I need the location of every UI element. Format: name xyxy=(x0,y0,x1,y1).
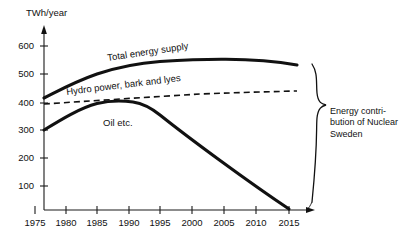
y-axis xyxy=(41,25,47,210)
y-tick-label-400: 400 xyxy=(8,98,34,108)
x-tick-label-1975: 1975 xyxy=(20,218,50,228)
x-tick-label-1980: 1980 xyxy=(51,218,81,228)
chart-container: TWh/year 600 500 400 300 200 100 1975 19… xyxy=(0,0,402,237)
nuclear-contribution-annotation: Energy contri- bution of Nuclear Sweden xyxy=(330,106,402,140)
y-tick-label-200: 200 xyxy=(8,153,34,163)
x-tick-label-2010: 2010 xyxy=(241,218,271,228)
annotation-line-3: Sweden xyxy=(330,129,363,139)
annotation-line-2: bution of Nuclear xyxy=(330,117,398,127)
y-axis-title: TWh/year xyxy=(26,8,67,18)
nuclear-contribution-brace-icon xyxy=(312,64,326,202)
x-axis xyxy=(44,207,315,213)
x-tick-label-2005: 2005 xyxy=(209,218,239,228)
x-tick-label-1995: 1995 xyxy=(145,218,175,228)
annotation-line-1: Energy contri- xyxy=(330,106,386,116)
y-tick-label-500: 500 xyxy=(8,69,34,79)
x-tick-label-1985: 1985 xyxy=(82,218,112,228)
x-tick-label-2000: 2000 xyxy=(177,218,207,228)
y-tick-label-600: 600 xyxy=(8,41,34,51)
y-tick-label-100: 100 xyxy=(8,181,34,191)
x-tick-label-2015: 2015 xyxy=(274,218,304,228)
series-label-oil: Oil etc. xyxy=(103,118,133,128)
y-tick-label-300: 300 xyxy=(8,125,34,135)
series-line-oil xyxy=(44,101,289,209)
x-tick-label-1990: 1990 xyxy=(114,218,144,228)
